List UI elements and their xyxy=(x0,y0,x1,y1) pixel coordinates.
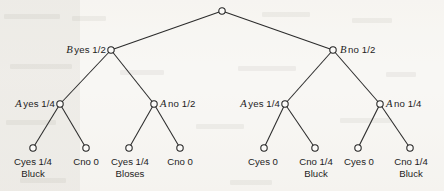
leaf-var-1: C xyxy=(14,156,21,167)
edge-a1-to-leaf1 xyxy=(33,104,60,148)
leaf-text-8: no 1/4 xyxy=(401,156,428,167)
node-b-yes xyxy=(108,47,114,53)
leaf-outcome-3: loses xyxy=(122,168,144,179)
leaf-label-4: Cno 0 xyxy=(152,156,208,168)
edge-b-yes-to-a-no xyxy=(111,50,154,104)
leaf-var-3: C xyxy=(111,156,118,167)
edge-a1-to-leaf2 xyxy=(60,104,86,148)
node-leaf-8 xyxy=(407,145,413,151)
leaf-label-5: Cyes 0 xyxy=(234,156,292,168)
label-text-b-no: no 1/2 xyxy=(348,44,375,55)
node-a-no-left xyxy=(151,101,157,107)
leaf-text-6: no 1/4 xyxy=(306,156,333,167)
leaf-text-7: yes 0 xyxy=(351,156,374,167)
edge-root-to-b-no xyxy=(222,11,333,50)
label-var-a-no-left: A xyxy=(160,98,168,109)
label-node-b-yes: Byes 1/2 xyxy=(66,44,106,56)
edge-b-no-to-a-yes xyxy=(285,50,333,104)
label-var-a-no-right: A xyxy=(386,98,394,109)
node-leaf-6 xyxy=(312,145,318,151)
node-b-no xyxy=(330,47,336,53)
leaf-text-5: yes 0 xyxy=(255,156,278,167)
label-node-a-no-right: Ano 1/4 xyxy=(386,98,421,110)
node-leaf-5 xyxy=(261,145,267,151)
node-leaf-2 xyxy=(83,145,89,151)
edge-a2-to-leaf3 xyxy=(129,104,154,148)
leaf-outcome-8: luck xyxy=(406,168,423,179)
decision-tree-figure: Byes 1/2 Bno 1/2 Ayes 1/4 Ano 1/2 Ayes 1… xyxy=(0,0,444,191)
leaf-label-1: Cyes 1/4 Bluck xyxy=(0,156,66,180)
leaf-outcome-1: luck xyxy=(28,168,45,179)
leaf-label-8: Cno 1/4 Bluck xyxy=(380,156,442,180)
leaf-text-1: yes 1/4 xyxy=(21,156,52,167)
node-root xyxy=(219,8,225,14)
label-node-a-yes-right: Ayes 1/4 xyxy=(240,98,280,110)
edge-b-no-to-a-no xyxy=(333,50,380,104)
leaf-text-3: yes 1/4 xyxy=(118,156,149,167)
node-a-no-right xyxy=(377,101,383,107)
edge-a2-to-leaf4 xyxy=(154,104,180,148)
leaf-outcome-6: luck xyxy=(311,168,328,179)
edge-a3-to-leaf5 xyxy=(264,104,285,148)
label-text-b-yes: yes 1/2 xyxy=(74,44,106,55)
edge-a3-to-leaf6 xyxy=(285,104,315,148)
label-var-b-no: B xyxy=(340,44,348,55)
label-node-a-no-left: Ano 1/2 xyxy=(160,98,195,110)
label-node-a-yes-left: Ayes 1/4 xyxy=(15,98,55,110)
node-leaf-3 xyxy=(126,145,132,151)
label-text-a-no-left: no 1/2 xyxy=(168,98,195,109)
node-a-yes-left xyxy=(57,101,63,107)
node-a-yes-right xyxy=(282,101,288,107)
label-text-a-yes-left: yes 1/4 xyxy=(23,98,55,109)
edge-a4-to-leaf7 xyxy=(358,104,380,148)
label-node-b-no: Bno 1/2 xyxy=(340,44,375,56)
leaf-text-2: no 0 xyxy=(80,156,99,167)
edge-a4-to-leaf8 xyxy=(380,104,410,148)
leaf-var-7: C xyxy=(344,156,351,167)
edge-b-yes-to-a-yes xyxy=(60,50,111,104)
edge-root-to-b-yes xyxy=(111,11,222,50)
label-text-a-no-right: no 1/4 xyxy=(394,98,421,109)
leaf-var-5: C xyxy=(248,156,255,167)
node-leaf-4 xyxy=(177,145,183,151)
node-leaf-1 xyxy=(30,145,36,151)
node-leaf-7 xyxy=(355,145,361,151)
leaf-text-4: no 0 xyxy=(174,156,193,167)
label-text-a-yes-right: yes 1/4 xyxy=(248,98,280,109)
